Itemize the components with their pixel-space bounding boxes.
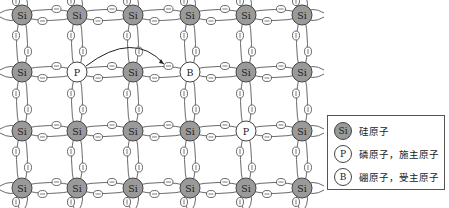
atom-label: Si	[297, 67, 307, 78]
atom-label: Si	[128, 67, 138, 78]
legend-item-silicon: Si 硅原子	[334, 121, 389, 141]
atom-label: Si	[241, 67, 251, 78]
phosphorus-atom-icon: P	[334, 145, 352, 163]
donated-electron-arrow	[86, 47, 164, 66]
atom-label: Si	[128, 183, 138, 194]
atom-label: Si	[297, 10, 307, 21]
silicon-atom-icon: Si	[334, 122, 352, 140]
atom-label: Si	[185, 183, 195, 194]
atom-label: Si	[17, 10, 27, 21]
atom-label: Si	[241, 10, 251, 21]
atom-label: Si	[297, 183, 307, 194]
atom-label: Si	[185, 10, 195, 21]
atom-label: Si	[128, 10, 138, 21]
atom-label: Si	[72, 10, 82, 21]
atom-label: Si	[17, 183, 27, 194]
atom-label: Si	[72, 183, 82, 194]
atom-label: Si	[128, 126, 138, 137]
legend-label: 磷原子，施主原子	[359, 147, 439, 161]
atom-label: Si	[185, 126, 195, 137]
atom-label: P	[243, 126, 250, 137]
legend-item-boron: B 硼原子，受主原子	[334, 167, 439, 187]
legend-label: 硼原子，受主原子	[359, 170, 439, 184]
legend-box: Si 硅原子 P 磷原子，施主原子 B 硼原子，受主原子	[327, 115, 445, 190]
atom-label: B	[187, 67, 194, 78]
atom-label: Si	[72, 126, 82, 137]
legend-label: 硅原子	[359, 124, 389, 138]
atom-label: Si	[297, 126, 307, 137]
atom-label: P	[74, 67, 81, 78]
atom-label: Si	[17, 67, 27, 78]
boron-atom-icon: B	[334, 168, 352, 186]
atom-label: Si	[241, 183, 251, 194]
legend-item-phosphorus: P 磷原子，施主原子	[334, 144, 439, 164]
atom-label: Si	[17, 126, 27, 137]
